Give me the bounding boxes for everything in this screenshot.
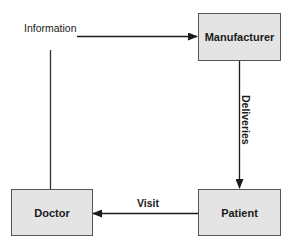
edge-label-information: Information [24, 22, 77, 34]
node-manufacturer-label: Manufacturer [205, 31, 275, 43]
node-patient: Patient [198, 189, 281, 236]
node-doctor-label: Doctor [34, 207, 69, 219]
node-manufacturer: Manufacturer [198, 13, 281, 61]
node-patient-label: Patient [221, 207, 258, 219]
edge-label-deliveries: Deliveries [240, 95, 252, 145]
edge-label-visit: Visit [137, 197, 159, 209]
node-doctor: Doctor [11, 189, 93, 236]
